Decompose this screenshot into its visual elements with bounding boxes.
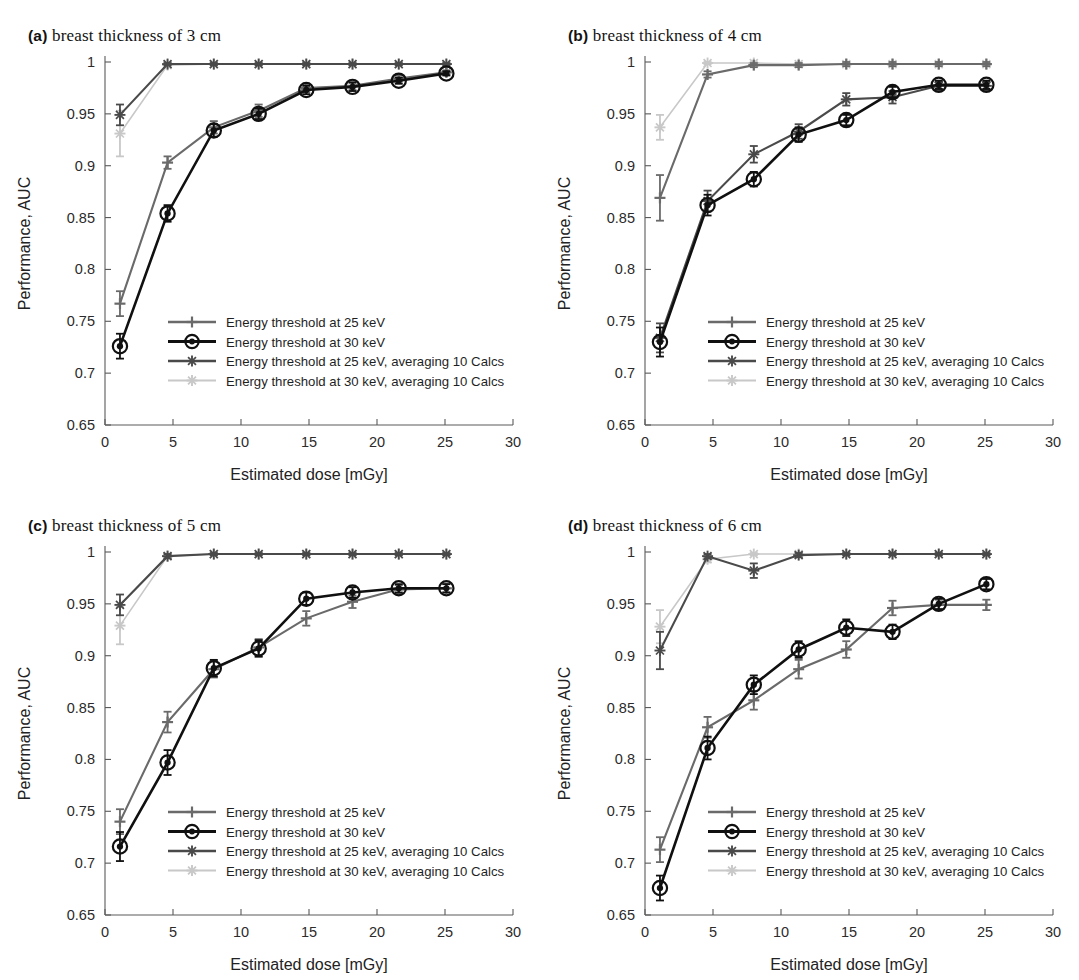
legend-label: Energy threshold at 30 keV, averaging 10… xyxy=(766,374,1044,389)
x-axis-label: Estimated dose [mGy] xyxy=(770,956,927,973)
legend-label: Energy threshold at 25 keV xyxy=(226,315,385,330)
legend-label: Energy threshold at 30 keV xyxy=(766,825,925,840)
legend-item: Energy threshold at 25 keV xyxy=(168,315,385,330)
legend-item: Energy threshold at 30 keV, averaging 10… xyxy=(708,374,1044,389)
legend-label: Energy threshold at 30 keV, averaging 10… xyxy=(226,864,504,879)
y-tick-label: 0.85 xyxy=(607,210,635,226)
y-tick-label: 0.65 xyxy=(607,907,635,923)
series-line xyxy=(114,67,451,316)
x-tick-label: 10 xyxy=(233,434,249,450)
legend-item: Energy threshold at 30 keV xyxy=(708,335,925,350)
y-tick-label: 0.95 xyxy=(607,596,635,612)
x-tick-label: 10 xyxy=(773,434,789,450)
x-tick-label: 30 xyxy=(505,434,521,450)
panel-b: (b) breast thickness of 4 cm 0.650.70.75… xyxy=(540,0,1079,490)
panel-a-plot: 0.650.70.750.80.850.90.951051015202530Es… xyxy=(0,0,539,490)
legend-item: Energy threshold at 30 keV xyxy=(168,825,385,840)
panel-b-svg: 0.650.70.750.80.850.90.951051015202530Es… xyxy=(540,0,1079,490)
x-tick-label: 0 xyxy=(641,434,649,450)
legend-label: Energy threshold at 30 keV xyxy=(226,825,385,840)
y-tick-label: 0.7 xyxy=(75,855,95,871)
legend-label: Energy threshold at 30 keV, averaging 10… xyxy=(226,374,504,389)
legend-item: Energy threshold at 25 keV, averaging 10… xyxy=(708,844,1044,859)
figure-panel-grid: (a) breast thickness of 3 cm 0.650.70.75… xyxy=(0,0,1079,980)
legend-label: Energy threshold at 30 keV xyxy=(766,335,925,350)
y-tick-label: 0.9 xyxy=(615,158,635,174)
panel-a: (a) breast thickness of 3 cm 0.650.70.75… xyxy=(0,0,539,490)
panel-a-svg: 0.650.70.750.80.850.90.951051015202530Es… xyxy=(0,0,539,490)
legend-item: Energy threshold at 25 keV, averaging 10… xyxy=(168,844,504,859)
y-tick-label: 0.9 xyxy=(75,158,95,174)
y-tick-label: 0.8 xyxy=(615,751,635,767)
legend-label: Energy threshold at 25 keV xyxy=(766,315,925,330)
y-tick-label: 1 xyxy=(87,54,95,70)
y-tick-label: 0.75 xyxy=(607,803,635,819)
panel-c-plot: 0.650.70.750.80.850.90.951051015202530Es… xyxy=(0,490,539,980)
legend-label: Energy threshold at 25 keV xyxy=(766,805,925,820)
y-tick-label: 0.95 xyxy=(67,596,95,612)
series-line xyxy=(114,583,451,834)
legend-label: Energy threshold at 25 keV, averaging 10… xyxy=(226,354,504,369)
x-tick-label: 30 xyxy=(505,924,521,940)
legend-item: Energy threshold at 30 keV xyxy=(168,335,385,350)
legend-item: Energy threshold at 25 keV xyxy=(708,805,925,820)
x-tick-label: 30 xyxy=(1045,924,1061,940)
y-tick-label: 0.75 xyxy=(607,313,635,329)
x-tick-label: 15 xyxy=(301,924,317,940)
y-tick-label: 0.85 xyxy=(67,700,95,716)
y-tick-label: 0.75 xyxy=(67,313,95,329)
legend-label: Energy threshold at 25 keV, averaging 10… xyxy=(766,844,1044,859)
y-tick-label: 0.95 xyxy=(607,106,635,122)
x-tick-label: 0 xyxy=(101,434,109,450)
x-tick-label: 5 xyxy=(169,434,177,450)
x-tick-label: 20 xyxy=(909,434,925,450)
x-tick-label: 10 xyxy=(233,924,249,940)
x-tick-label: 25 xyxy=(977,434,993,450)
y-tick-label: 0.9 xyxy=(615,648,635,664)
y-axis-label: Performance, AUC xyxy=(16,177,33,310)
y-axis-label: Performance, AUC xyxy=(556,667,573,800)
y-tick-label: 0.95 xyxy=(67,106,95,122)
x-axis-label: Estimated dose [mGy] xyxy=(230,466,387,483)
legend-label: Energy threshold at 25 keV, averaging 10… xyxy=(766,354,1044,369)
x-tick-label: 25 xyxy=(437,924,453,940)
legend-item: Energy threshold at 25 keV xyxy=(708,315,925,330)
x-axis-label: Estimated dose [mGy] xyxy=(230,956,387,973)
x-tick-label: 20 xyxy=(909,924,925,940)
legend-item: Energy threshold at 30 keV, averaging 10… xyxy=(168,374,504,389)
y-tick-label: 0.8 xyxy=(75,751,95,767)
legend-item: Energy threshold at 30 keV, averaging 10… xyxy=(708,864,1044,879)
y-tick-label: 1 xyxy=(87,544,95,560)
y-axis-label: Performance, AUC xyxy=(556,177,573,310)
y-tick-label: 0.75 xyxy=(67,803,95,819)
y-axis-label: Performance, AUC xyxy=(16,667,33,800)
panel-b-plot: 0.650.70.750.80.850.90.951051015202530Es… xyxy=(540,0,1079,490)
y-tick-label: 0.7 xyxy=(615,365,635,381)
x-tick-label: 5 xyxy=(169,924,177,940)
legend-label: Energy threshold at 25 keV xyxy=(226,805,385,820)
x-tick-label: 30 xyxy=(1045,434,1061,450)
x-tick-label: 25 xyxy=(977,924,993,940)
y-tick-label: 0.8 xyxy=(75,261,95,277)
x-tick-label: 20 xyxy=(369,434,385,450)
x-axis-label: Estimated dose [mGy] xyxy=(770,466,927,483)
x-tick-label: 25 xyxy=(437,434,453,450)
y-tick-label: 1 xyxy=(627,544,635,560)
legend-label: Energy threshold at 30 keV xyxy=(226,335,385,350)
x-tick-label: 5 xyxy=(709,924,717,940)
y-tick-label: 0.65 xyxy=(607,417,635,433)
x-tick-label: 15 xyxy=(301,434,317,450)
panel-c: (c) breast thickness of 5 cm 0.650.70.75… xyxy=(0,490,539,980)
y-tick-label: 0.65 xyxy=(67,907,95,923)
x-tick-label: 10 xyxy=(773,924,789,940)
legend-item: Energy threshold at 25 keV, averaging 10… xyxy=(168,354,504,369)
legend-item: Energy threshold at 30 keV xyxy=(708,825,925,840)
y-tick-label: 0.65 xyxy=(67,417,95,433)
legend-label: Energy threshold at 30 keV, averaging 10… xyxy=(766,864,1044,879)
legend-item: Energy threshold at 25 keV, averaging 10… xyxy=(708,354,1044,369)
legend-item: Energy threshold at 25 keV xyxy=(168,805,385,820)
y-tick-label: 0.9 xyxy=(75,648,95,664)
y-tick-label: 0.8 xyxy=(615,261,635,277)
legend-item: Energy threshold at 30 keV, averaging 10… xyxy=(168,864,504,879)
x-tick-label: 15 xyxy=(841,924,857,940)
